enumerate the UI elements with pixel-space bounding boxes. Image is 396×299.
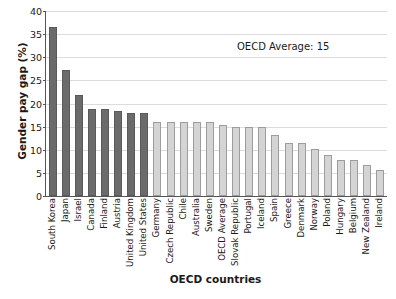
x-tick-label: Canada <box>86 198 96 231</box>
x-tick-slot: Portugal <box>242 197 255 269</box>
bar <box>311 149 319 196</box>
bar-slot <box>85 11 98 196</box>
bar <box>258 127 266 196</box>
bar-slot <box>256 11 269 196</box>
bar <box>206 122 214 196</box>
bar-slot <box>308 11 321 196</box>
x-tick-slot: United States <box>137 197 150 269</box>
x-tick-slot: South Korea <box>45 197 58 269</box>
bar-slot <box>361 11 374 196</box>
bar-slot <box>230 11 243 196</box>
x-tick-label: Denmark <box>296 198 306 238</box>
bar <box>193 122 201 196</box>
y-tick-label: 35 <box>30 29 42 40</box>
bar <box>127 113 135 196</box>
x-tick-label: South Korea <box>47 198 57 250</box>
bar <box>101 109 109 196</box>
bar-slot <box>98 11 111 196</box>
x-tick-slot: Japan <box>58 197 71 269</box>
bar <box>180 122 188 196</box>
x-tick-label: New Zealand <box>361 198 371 254</box>
x-tick-label: Hungary <box>335 198 345 235</box>
x-tick-slot: Spain <box>268 197 281 269</box>
y-tick-label: 5 <box>36 167 42 178</box>
x-tick-slot: Slovak Republic <box>229 197 242 269</box>
bar <box>363 165 371 196</box>
x-tick-label: Spain <box>269 198 279 222</box>
x-tick-label: Slovak Republic <box>230 198 240 266</box>
bar-slot <box>282 11 295 196</box>
x-tick-slot: Chile <box>176 197 189 269</box>
bar-slot <box>374 11 387 196</box>
x-tick-label: Israel <box>73 198 83 222</box>
bar-slot <box>190 11 203 196</box>
x-tick-slot: Canada <box>84 197 97 269</box>
x-tick-label: Japan <box>60 198 70 222</box>
x-tick-label: Czech Republic <box>165 198 175 263</box>
bar <box>298 143 306 196</box>
x-tick-label: Sweden <box>204 198 214 232</box>
y-axis-title: Gender pay gap (%) <box>16 21 28 181</box>
x-tick-label: Belgium <box>348 198 358 233</box>
y-tick-label: 15 <box>30 121 42 132</box>
bar-slot <box>321 11 334 196</box>
bar <box>285 143 293 196</box>
bar-slot <box>46 11 59 196</box>
bar <box>232 127 240 196</box>
x-tick-label: Ireland <box>374 198 384 228</box>
x-tick-label: Greece <box>283 198 293 229</box>
x-tick-slot: Ireland <box>373 197 386 269</box>
x-tick-slot: Iceland <box>255 197 268 269</box>
bar-slot <box>203 11 216 196</box>
bar-series <box>46 11 387 196</box>
bar-slot <box>334 11 347 196</box>
x-tick-label: United States <box>138 198 148 256</box>
x-tick-label: United Kingdom <box>125 198 135 267</box>
x-tick-slot: New Zealand <box>360 197 373 269</box>
x-tick-slot: Israel <box>71 197 84 269</box>
bar <box>114 111 122 196</box>
bar-slot <box>269 11 282 196</box>
x-axis-tick-labels: South KoreaJapanIsraelCanadaFinlandAustr… <box>45 197 386 269</box>
bar-slot <box>177 11 190 196</box>
bar <box>75 95 83 196</box>
y-tick-label: 20 <box>30 98 42 109</box>
bar <box>245 127 253 196</box>
bar-slot <box>125 11 138 196</box>
y-tick-label: 30 <box>30 52 42 63</box>
bar <box>324 155 332 196</box>
bar <box>140 113 148 196</box>
x-tick-label: Australia <box>191 198 201 236</box>
x-tick-slot: Poland <box>320 197 333 269</box>
x-tick-slot: Belgium <box>347 197 360 269</box>
bar <box>376 170 384 196</box>
bar <box>350 160 358 196</box>
bar-slot <box>59 11 72 196</box>
x-tick-slot: Finland <box>97 197 110 269</box>
x-tick-slot: Germany <box>150 197 163 269</box>
x-tick-label: Portugal <box>243 198 253 234</box>
bar-slot <box>216 11 229 196</box>
x-tick-slot: Sweden <box>202 197 215 269</box>
bar <box>271 135 279 197</box>
bar <box>219 125 227 196</box>
bar <box>337 160 345 196</box>
y-tick-label: 10 <box>30 144 42 155</box>
gender-pay-gap-chart: Gender pay gap (%) 0510152025303540 OECD… <box>0 0 396 299</box>
x-tick-slot: Czech Republic <box>163 197 176 269</box>
bar-slot <box>138 11 151 196</box>
y-tick-label: 0 <box>36 191 42 202</box>
x-tick-label: Germany <box>151 198 161 238</box>
x-tick-slot: Austria <box>111 197 124 269</box>
bar-slot <box>72 11 85 196</box>
bar <box>62 70 70 196</box>
bar-slot <box>164 11 177 196</box>
x-tick-label: Austria <box>112 198 122 228</box>
x-tick-slot: Norway <box>307 197 320 269</box>
plot-area: 0510152025303540 <box>45 11 387 197</box>
bar <box>49 27 57 196</box>
bar <box>167 122 175 196</box>
x-tick-label: Finland <box>99 198 109 229</box>
x-tick-slot: Denmark <box>294 197 307 269</box>
bar <box>153 122 161 196</box>
